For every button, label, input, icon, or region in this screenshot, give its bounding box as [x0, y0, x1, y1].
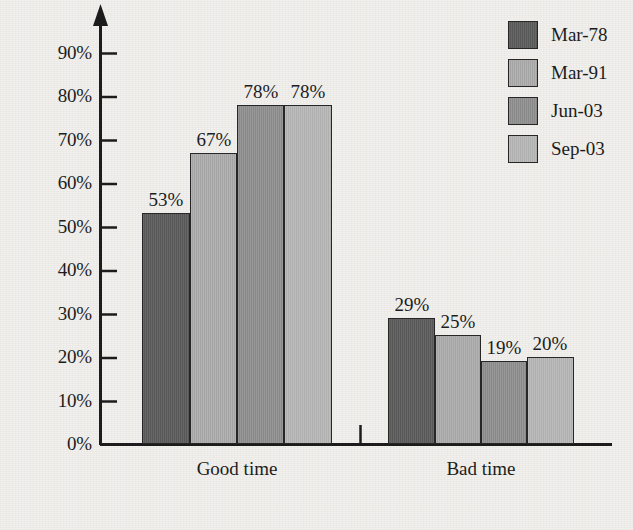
bar-texture [143, 214, 189, 443]
y-tick-label-70: 70% [22, 129, 92, 151]
y-tick-label-40: 40% [22, 259, 92, 281]
legend-swatch-jun-03 [508, 97, 538, 125]
legend-item-sep-03: Sep-03 [508, 130, 608, 168]
bar-value-label-good-time-mar-78: 53% [132, 189, 200, 211]
legend-swatch-sep-03 [508, 135, 538, 163]
bar-texture [389, 319, 434, 443]
bar-value-label-bad-time-sep-03: 20% [516, 333, 584, 355]
bar-good-time-sep-03 [284, 105, 332, 444]
y-tick-label-30: 30% [22, 303, 92, 325]
y-tick-label-10: 10% [22, 390, 92, 412]
bar-texture [285, 106, 331, 443]
legend-label-sep-03: Sep-03 [551, 138, 605, 160]
bar-good-time-jun-03 [237, 105, 284, 444]
bar-good-time-mar-78 [142, 213, 190, 444]
x-axis-label-bad-time: Bad time [401, 458, 561, 480]
bar-chart: 90% 80% 70% 60% 50% 40% 30% 20% 10% 0% 5… [0, 0, 633, 530]
bar-texture [482, 362, 526, 443]
legend-item-mar-91: Mar-91 [508, 54, 608, 92]
legend-item-mar-78: Mar-78 [508, 16, 608, 54]
y-axis-ticks [101, 54, 117, 402]
bar-bad-time-sep-03 [527, 357, 574, 444]
bar-texture [528, 358, 573, 443]
bar-texture [238, 106, 283, 443]
y-tick-label-90: 90% [22, 42, 92, 64]
swatch-texture [509, 136, 537, 162]
legend-swatch-mar-78 [508, 21, 538, 49]
y-tick-label-80: 80% [22, 85, 92, 107]
bar-value-label-good-time-mar-91: 67% [180, 129, 248, 151]
swatch-texture [509, 60, 537, 86]
legend-item-jun-03: Jun-03 [508, 92, 608, 130]
y-tick-label-50: 50% [22, 216, 92, 238]
y-tick-label-20: 20% [22, 346, 92, 368]
y-tick-label-60: 60% [22, 172, 92, 194]
bar-bad-time-jun-03 [481, 361, 527, 444]
x-axis-label-good-time: Good time [157, 458, 317, 480]
legend-label-mar-91: Mar-91 [551, 62, 608, 84]
swatch-texture [509, 22, 537, 48]
legend: Mar-78 Mar-91 Jun-03 Sep-03 [508, 16, 608, 168]
bar-value-label-good-time-sep-03: 78% [274, 81, 342, 103]
legend-label-jun-03: Jun-03 [551, 100, 603, 122]
legend-swatch-mar-91 [508, 59, 538, 87]
y-axis-arrow-icon [93, 4, 108, 26]
bar-value-label-bad-time-mar-91: 25% [424, 311, 492, 333]
legend-label-mar-78: Mar-78 [551, 24, 608, 46]
y-tick-label-0: 0% [22, 433, 92, 455]
bar-bad-time-mar-78 [388, 318, 435, 444]
swatch-texture [509, 98, 537, 124]
